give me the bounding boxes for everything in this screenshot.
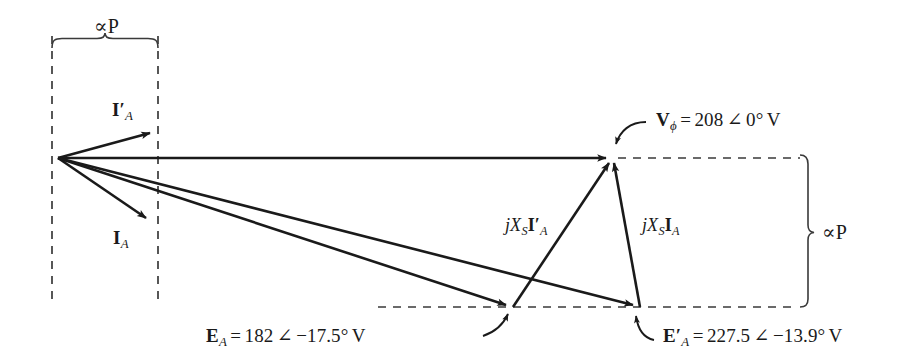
- label-ia-prime-subscript: A: [125, 108, 133, 123]
- label-ea-magnitude: 182: [245, 325, 274, 346]
- leader-vphi: [616, 122, 646, 144]
- label-ia-subscript: A: [121, 236, 129, 251]
- prop-p-right-label: ∝P: [822, 222, 847, 242]
- angle-icon: ∠: [750, 325, 773, 346]
- label-jxs-ia-x: X: [647, 215, 658, 235]
- label-vphi-magnitude: 208: [694, 109, 723, 130]
- label-ea-angle: −17.5°: [296, 325, 348, 346]
- label-ea-unit: V: [348, 325, 369, 346]
- label-jxs-ia-prime-isub: A: [540, 224, 548, 238]
- vector-jxs-ia: [614, 163, 640, 307]
- label-ea-prime-unit: V: [825, 325, 846, 346]
- diagram-canvas: [0, 0, 908, 362]
- label-ia-prime: I′A: [112, 100, 133, 123]
- label-vphi-equals: =: [677, 109, 695, 130]
- prop-p-top-label: ∝P: [94, 16, 119, 36]
- label-vphi-symbol: V: [656, 109, 670, 130]
- label-ea-prime-equals: =: [689, 325, 707, 346]
- phasor-diagram-figure: ∝P ∝P I′A IA Vϕ=208∠0°V jXSI′A jXSIA EA=…: [0, 0, 908, 362]
- label-jxs-ia-prime-i: I: [528, 215, 535, 235]
- label-vphi-unit: V: [763, 109, 784, 130]
- label-jxs-ia-isub: A: [672, 224, 680, 238]
- construction-guides: [52, 36, 800, 307]
- label-ea-equals: =: [227, 325, 245, 346]
- prop-p-right-bracket: [800, 155, 814, 307]
- phasor-ia-prime: [58, 133, 150, 158]
- label-ea-symbol: E: [206, 325, 219, 346]
- label-ea-prime-angle: −13.9°: [773, 325, 825, 346]
- angle-icon: ∠: [273, 325, 296, 346]
- angle-icon: ∠: [723, 109, 746, 130]
- label-vphi: Vϕ=208∠0°V: [656, 110, 784, 133]
- phasor-ia: [58, 158, 146, 218]
- label-jxs-ia: jXSIA: [642, 216, 680, 237]
- label-ea-prime-symbol: E: [663, 325, 676, 346]
- leader-ea: [483, 314, 508, 336]
- label-ea-prime-magnitude: 227.5: [707, 325, 750, 346]
- label-vphi-subscript: ϕ: [670, 118, 677, 133]
- label-jxs-ia-prime: jXSI′A: [505, 216, 548, 237]
- label-jxs-ia-prime-x: X: [510, 215, 521, 235]
- label-ea-prime: E′A=227.5∠−13.9°V: [663, 326, 846, 349]
- label-jxs-ia-i: I: [665, 215, 672, 235]
- label-vphi-angle: 0°: [746, 109, 763, 130]
- leader-ea-prime: [636, 316, 654, 340]
- label-ia-symbol: I: [113, 227, 121, 248]
- label-ea: EA=182∠−17.5°V: [206, 326, 369, 349]
- label-ia-prime-symbol: I: [112, 99, 120, 120]
- label-ia: IA: [113, 228, 129, 251]
- label-ea-subscript: A: [219, 334, 227, 349]
